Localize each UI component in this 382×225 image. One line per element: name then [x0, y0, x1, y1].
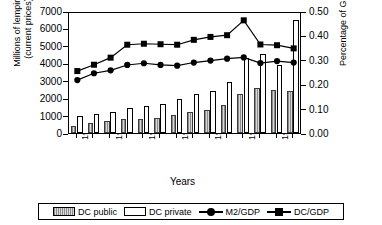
y-left-tick-label: 7000 — [18, 6, 62, 17]
y-right-tick-label: 0.30 — [309, 55, 328, 66]
plot-area — [68, 12, 301, 134]
marker-dc-gdp — [291, 45, 297, 51]
marker-m2-gdp — [157, 62, 163, 68]
marker-dc-gdp — [174, 42, 180, 48]
figure-root: Millions of lempiras (current prices) Pe… — [0, 0, 382, 225]
marker-m2-gdp — [241, 54, 247, 60]
marker-dc-gdp — [191, 37, 197, 43]
legend-swatch-icon — [53, 207, 75, 216]
marker-dc-gdp — [108, 55, 114, 61]
legend-item-label: DC/GDP — [294, 207, 329, 217]
line-layer — [69, 13, 302, 135]
y-left-tick-label: 2000 — [18, 93, 62, 104]
marker-dc-gdp — [257, 41, 263, 47]
marker-m2-gdp — [207, 57, 213, 63]
legend-item-label: M2/GDP — [226, 207, 261, 217]
marker-dc-gdp — [241, 17, 247, 23]
legend-line-marker-icon — [199, 207, 223, 216]
marker-m2-gdp — [141, 60, 147, 66]
marker-m2-gdp — [91, 70, 97, 76]
marker-m2-gdp — [124, 62, 130, 68]
y-left-tick-label: 1000 — [18, 111, 62, 122]
y-right-tick-label: 0.20 — [309, 79, 328, 90]
legend-item-label: DC private — [149, 207, 192, 217]
marker-dc-gdp — [91, 62, 97, 68]
marker-m2-gdp — [257, 60, 263, 66]
y-left-tick-label: 0 — [18, 128, 62, 139]
y-left-tick-label: 6000 — [18, 23, 62, 34]
marker-dc-gdp — [74, 68, 80, 74]
chart-legend: DC publicDC privateM2/GDPDC/GDP — [38, 203, 344, 220]
y-left-tick-label: 5000 — [18, 41, 62, 52]
legend-item: DC private — [124, 207, 192, 217]
marker-dc-gdp — [124, 42, 130, 48]
x-axis-title: Years — [60, 176, 305, 187]
marker-dc-gdp — [224, 32, 230, 38]
marker-m2-gdp — [74, 77, 80, 83]
legend-swatch-icon — [124, 207, 146, 216]
marker-m2-gdp — [274, 58, 280, 64]
y-left-tick-label: 4000 — [18, 58, 62, 69]
marker-m2-gdp — [174, 63, 180, 69]
marker-m2-gdp — [191, 59, 197, 65]
legend-item-label: DC public — [78, 207, 117, 217]
legend-item: M2/GDP — [199, 207, 261, 217]
y-left-tick-label: 3000 — [18, 76, 62, 87]
marker-dc-gdp — [207, 34, 213, 40]
marker-dc-gdp — [158, 41, 164, 47]
marker-m2-gdp — [224, 56, 230, 62]
legend-item: DC/GDP — [267, 207, 329, 217]
y-axis-right-title: Percentage of GDP — [338, 0, 348, 92]
marker-dc-gdp — [274, 42, 280, 48]
legend-line-marker-icon — [267, 207, 291, 216]
y-right-tick-label: 0.50 — [309, 6, 328, 17]
y-right-tick-label: 0.00 — [309, 128, 328, 139]
marker-dc-gdp — [141, 41, 147, 47]
y-right-tick-label: 0.10 — [309, 104, 328, 115]
y-right-tick-label: 0.40 — [309, 30, 328, 41]
marker-m2-gdp — [291, 59, 297, 65]
marker-m2-gdp — [108, 67, 114, 73]
legend-item: DC public — [53, 207, 117, 217]
